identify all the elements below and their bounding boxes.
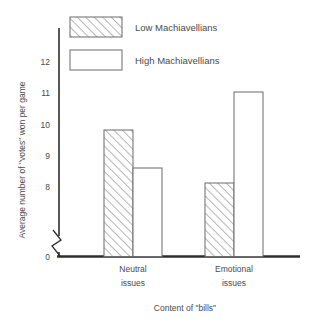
- bar-emotional-high-mach: [234, 92, 263, 257]
- y-tick-label-0: 0: [45, 252, 50, 262]
- legend-label-high-mach: High Machiavellians: [135, 55, 220, 66]
- bar-neutral-low-mach: [104, 130, 133, 257]
- x-category-label-emotional-line1: Emotional: [215, 264, 253, 274]
- x-category-label-emotional-line2: issues: [222, 278, 246, 288]
- y-tick-label-11: 11: [41, 88, 50, 98]
- bar-emotional-low-mach: [205, 183, 234, 257]
- legend-label-low-mach: Low Machiavellians: [135, 22, 218, 33]
- x-category-label-neutral-line1: Neutral: [119, 264, 147, 274]
- bar-chart-svg: 12 11 10 9 8 0 Neutral issues Emotional …: [0, 0, 313, 324]
- x-category-label-neutral-line2: issues: [121, 278, 145, 288]
- legend-swatch-low-mach: [70, 17, 122, 37]
- y-axis-title: Average number of "votes" won per game: [17, 81, 27, 238]
- y-tick-label-12: 12: [41, 57, 51, 67]
- y-tick-label-8: 8: [45, 182, 50, 192]
- y-tick-label-10: 10: [41, 120, 51, 130]
- chart-figure: 12 11 10 9 8 0 Neutral issues Emotional …: [0, 0, 313, 324]
- plot-background: [0, 0, 313, 324]
- x-axis-title: Content of "bills": [154, 303, 216, 313]
- y-tick-label-9: 9: [45, 151, 50, 161]
- legend-swatch-high-mach: [70, 50, 122, 70]
- bar-neutral-high-mach: [133, 168, 162, 257]
